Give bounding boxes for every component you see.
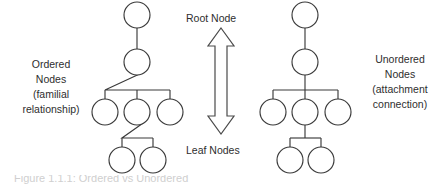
tree-node[interactable]: [292, 2, 318, 28]
unordered-nodes-caption: Unordered Nodes (attachment connection): [372, 53, 428, 110]
figure-caption-text: Figure 1.1.1: Ordered vs Unordered: [14, 175, 188, 184]
tree-node[interactable]: [292, 99, 318, 125]
unordered-tree: [260, 2, 351, 173]
tree-diagram: Root Node Leaf Nodes Ordered Nodes (fami…: [0, 0, 448, 184]
caption-line: relationship): [22, 103, 79, 115]
caption-line: Nodes: [385, 68, 415, 80]
root-node-label: Root Node: [186, 12, 236, 24]
caption-line: (familial: [33, 88, 69, 100]
caption-line: Nodes: [36, 73, 66, 85]
tree-node[interactable]: [325, 99, 351, 125]
figure-canvas: Root Node Leaf Nodes Ordered Nodes (fami…: [0, 0, 448, 184]
tree-node[interactable]: [92, 99, 118, 125]
ordered-tree: [92, 2, 183, 173]
tree-node[interactable]: [109, 147, 135, 173]
caption-line: Ordered: [32, 58, 71, 70]
tree-node[interactable]: [292, 49, 318, 75]
ordered-nodes-caption: Ordered Nodes (familial relationship): [22, 58, 79, 115]
tree-node[interactable]: [277, 147, 303, 173]
tree-node[interactable]: [308, 147, 334, 173]
leaf-nodes-label: Leaf Nodes: [186, 144, 240, 156]
tree-node[interactable]: [140, 147, 166, 173]
caption-line: connection): [373, 98, 427, 110]
caption-line: Unordered: [375, 53, 425, 65]
tree-node[interactable]: [124, 49, 150, 75]
tree-node[interactable]: [157, 99, 183, 125]
caption-line: (attachment: [372, 83, 428, 95]
double-headed-vertical-arrow-icon: [208, 28, 234, 134]
tree-node[interactable]: [260, 99, 286, 125]
tree-node[interactable]: [124, 2, 150, 28]
tree-node[interactable]: [124, 99, 150, 125]
figure-caption-clipped: Figure 1.1.1: Ordered vs Unordered: [0, 175, 448, 184]
